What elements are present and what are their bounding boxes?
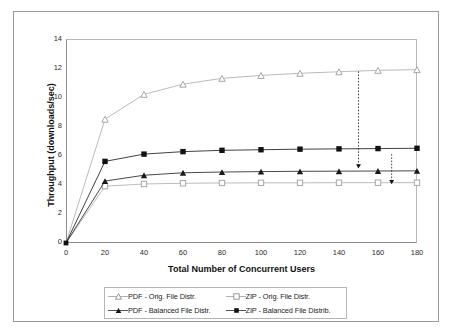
y-tick-0: 0	[36, 238, 62, 246]
legend-entry-pdf-balanced[interactable]: PDF - Balanced File Distr.	[108, 303, 226, 317]
y-tick-14: 14	[36, 35, 62, 43]
legend-entry-zip-balanced[interactable]: ZIP - Balanced File Distrib.	[226, 303, 344, 317]
legend-label-zip-orig: ZIP - Orig. File Distr.	[246, 292, 311, 301]
legend-label-zip-balanced: ZIP - Balanced File Distrib.	[246, 306, 331, 315]
x-tick-100: 100	[248, 249, 274, 257]
legend-key-open-square-icon	[226, 291, 246, 301]
x-tick-40: 40	[131, 249, 157, 257]
legend-key-filled-square-icon	[226, 305, 246, 315]
y-tick-8: 8	[36, 122, 62, 130]
legend-key-filled-triangle-icon	[108, 305, 128, 315]
y-tick-12: 12	[36, 64, 62, 72]
legend-label-pdf-orig: PDF - Orig. File Distr.	[128, 292, 196, 301]
x-tick-120: 120	[287, 249, 313, 257]
x-tick-140: 140	[326, 249, 352, 257]
legend-entry-zip-orig[interactable]: ZIP - Orig. File Distr.	[226, 289, 344, 303]
legend-label-pdf-balanced: PDF - Balanced File Distr.	[128, 306, 210, 315]
x-tick-160: 160	[365, 249, 391, 257]
x-axis-label: Total Number of Concurrent Users	[66, 264, 417, 274]
y-tick-4: 4	[36, 180, 62, 188]
x-tick-80: 80	[209, 249, 235, 257]
x-tick-60: 60	[170, 249, 196, 257]
legend: PDF - Orig. File Distr. ZIP - Orig. File…	[104, 287, 347, 319]
chart-figure: Throughput (downloads/sec) 14 12 10 8 6 …	[0, 0, 454, 335]
plot-area	[66, 39, 417, 243]
legend-key-open-triangle-icon	[108, 291, 128, 301]
legend-entry-pdf-orig[interactable]: PDF - Orig. File Distr.	[108, 289, 226, 303]
x-tick-180: 180	[404, 249, 430, 257]
x-tick-20: 20	[92, 249, 118, 257]
y-tick-2: 2	[36, 209, 62, 217]
y-tick-10: 10	[36, 93, 62, 101]
x-tick-0: 0	[53, 249, 79, 257]
y-tick-6: 6	[36, 151, 62, 159]
